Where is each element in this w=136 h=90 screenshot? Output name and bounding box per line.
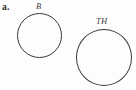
part-label-a: a. bbox=[2, 2, 10, 13]
figure-container: a. B TH bbox=[0, 0, 136, 90]
circle-b-label: B bbox=[36, 2, 42, 11]
circle-th-label: TH bbox=[96, 17, 107, 26]
circle-th bbox=[76, 29, 132, 86]
circle-b bbox=[17, 13, 62, 58]
